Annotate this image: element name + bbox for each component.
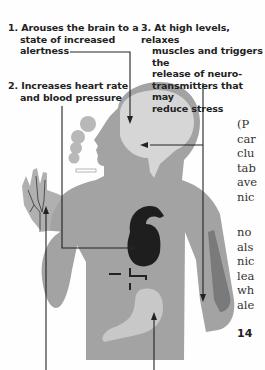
text-line: car [237,132,257,147]
callout-line: release of neuro- [141,68,265,80]
text-line: nic [237,254,255,269]
callout-line: At high levels, relaxes [141,22,230,45]
smoke-icon [69,116,97,164]
text-line: lea [237,269,255,284]
callout-heart-rate: 2. Increases heart rate and blood pressu… [8,80,128,103]
callout-line: Arouses the brain to a [21,22,138,33]
callout-number: 2. [8,80,18,91]
callout-line: transmitters that may [141,80,265,103]
cigarette-icon [76,169,96,172]
text-line: als [237,240,255,255]
book-page: 1. Arouses the brain to a state of incre… [0,0,265,370]
text-line: (P [237,117,257,132]
callout-muscles-stress: 3. At high levels, relaxes muscles and t… [141,22,265,114]
text-line: ave [237,175,257,190]
text-line: wh [237,283,255,298]
page-number: 14 [237,327,252,340]
callout-line: muscles and triggers the [141,45,265,68]
callout-line: reduce stress [141,103,265,115]
callout-brain-alertness: 1. Arouses the brain to a state of incre… [8,22,139,57]
callout-line: alertness [8,45,139,57]
callout-line: and blood pressure [8,92,128,104]
text-line: clu [237,146,257,161]
callout-number: 1. [8,22,18,33]
body-text-block-1: (P car clu tab ave nic [237,117,257,204]
callout-line: Increases heart rate [21,80,128,91]
text-line: ale [237,298,255,313]
body-text-block-2: no als nic lea wh ale [237,225,255,312]
text-line: nic [237,190,257,205]
callout-line: state of increased [8,34,139,46]
text-line: no [237,225,255,240]
callout-number: 3. [141,22,151,33]
text-line: tab [237,161,257,176]
